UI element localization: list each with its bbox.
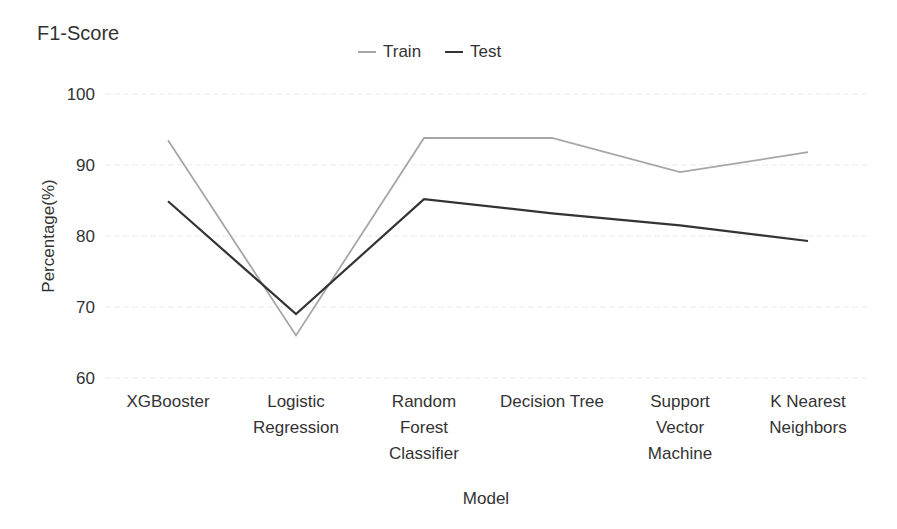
x-tick-label: XGBooster	[126, 392, 209, 411]
y-tick-label: 90	[76, 156, 95, 175]
x-tick-label: Machine	[648, 444, 712, 463]
x-tick-label: Classifier	[389, 444, 459, 463]
x-tick-label: Support	[650, 392, 710, 411]
x-tick-label: Logistic	[267, 392, 325, 411]
line-chart: 60708090100XGBoosterLogisticRegressionRa…	[0, 0, 897, 529]
x-tick-label: Neighbors	[769, 418, 847, 437]
x-tick-label: Forest	[400, 418, 448, 437]
y-tick-label: 60	[76, 369, 95, 388]
y-tick-label: 100	[67, 85, 95, 104]
series-line-train	[168, 138, 808, 335]
x-axis-label: Model	[463, 489, 509, 508]
y-axis-label: Percentage(%)	[39, 179, 58, 292]
series-line-test	[168, 199, 808, 314]
y-tick-label: 80	[76, 227, 95, 246]
x-tick-label: Random	[392, 392, 456, 411]
x-tick-label: Decision Tree	[500, 392, 604, 411]
x-tick-label: K Nearest	[770, 392, 846, 411]
x-tick-label: Vector	[656, 418, 705, 437]
y-tick-label: 70	[76, 298, 95, 317]
x-tick-label: Regression	[253, 418, 339, 437]
